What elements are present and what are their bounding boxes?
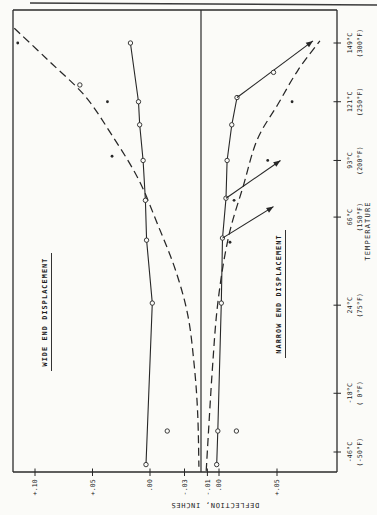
- wide-scatter-points-dot-marker: [111, 155, 114, 158]
- narrow-trend-line-to-71c-arrowhead: [266, 207, 273, 213]
- narrow-panel: -.01.00+.05: [204, 41, 320, 496]
- wide-measured-deflection-line-circle-marker: [150, 301, 154, 305]
- narrow-trend-line-to-93c-arrowhead: [273, 160, 280, 166]
- wide-scatter-points-circle-marker: [165, 429, 169, 433]
- scanned-figure-page: WIDE END DISPLACEMENT NARROW END DISPLAC…: [0, 0, 377, 515]
- wide-predicted-deflection-curve-circle-marker: [78, 83, 82, 87]
- narrow-scatter-points: [229, 100, 294, 433]
- narrow-trend-line-to-149c: [237, 41, 313, 98]
- narrow-predicted-deflection-curve: [206, 41, 320, 471]
- narrow-scatter-points-dot-marker: [233, 199, 236, 202]
- narrow-trend-line-to-93c-path: [226, 161, 281, 199]
- temperature-tick-label--46c: -46°C: [346, 442, 354, 463]
- temperature-tick-sublabel-121c: (250°F): [356, 87, 364, 116]
- wide-predicted-deflection-curve: [14, 28, 199, 466]
- figure-rotated-wrapper: WIDE END DISPLACEMENT NARROW END DISPLAC…: [0, 0, 377, 515]
- wide-measured-deflection-line: [128, 41, 154, 467]
- narrow-scatter-points-dot-marker: [229, 241, 232, 244]
- temperature-tick-sublabel-149c: (300°F): [356, 29, 364, 58]
- wide-measured-deflection-line-circle-marker: [137, 123, 141, 127]
- temperature-tick-label-93c: 93°C: [346, 152, 354, 168]
- wide-measured-deflection-line-circle-marker: [128, 41, 132, 45]
- temperature-tick-label-121c: 121°C: [346, 91, 354, 112]
- narrow-measured-deflection-line-circle-marker: [216, 429, 220, 433]
- narrow-measured-deflection-line-path: [217, 98, 237, 465]
- wide-deflection-tick-label: -.03: [181, 479, 189, 495]
- wide-measured-deflection-line-circle-marker: [144, 462, 148, 466]
- scan-edge-artifact-line: [30, 3, 377, 5]
- narrow-trend-line-to-71c: [223, 207, 274, 239]
- y-axis-label: DEFLECTION, INCHES: [171, 501, 259, 509]
- narrow-measured-deflection-line-circle-marker: [225, 158, 229, 162]
- narrow-measured-deflection-line: [214, 95, 239, 466]
- wide-measured-deflection-line-circle-marker: [136, 100, 140, 104]
- temperature-tick-sublabel-24c: (75°F): [356, 293, 364, 318]
- narrow-trend-line-to-93c: [226, 160, 281, 198]
- narrow-deflection-tick-label: -.01: [204, 479, 212, 495]
- wide-deflection-tick-label: +.10: [31, 479, 39, 495]
- temperature-tick-label--18c: -18°C: [346, 383, 354, 404]
- x-axis-label: TEMPERATURE: [364, 201, 372, 261]
- narrow-trend-line-to-149c-arrowhead: [306, 41, 313, 47]
- wide-measured-deflection-line-path: [130, 43, 152, 465]
- narrow-trend-line-to-149c-path: [237, 41, 313, 98]
- wide-panel-title: WIDE END DISPLACEMENT: [41, 257, 49, 366]
- wide-deflection-tick-label: .00: [146, 479, 154, 491]
- narrow-scatter-points-dot-marker: [266, 159, 269, 162]
- wide-deflection-tick-label: +.05: [89, 479, 97, 495]
- temperature-tick-sublabel--18c: ( 0°F): [356, 381, 364, 406]
- narrow-scatter-points-circle-marker: [234, 429, 238, 433]
- chart-series-root: -46°C(-50°F)-18°C( 0°F)24°C(75°F)66°C(15…: [14, 28, 363, 495]
- narrow-trend-line-to-71c-path: [223, 207, 274, 239]
- temperature-tick-label-149c: 149°C: [346, 33, 354, 54]
- wide-scatter-points-dot-marker: [106, 100, 109, 103]
- narrow-measured-deflection-line-circle-marker: [230, 123, 234, 127]
- narrow-measured-deflection-line-circle-marker: [219, 301, 223, 305]
- wide-scatter-points-dot-marker: [16, 42, 19, 45]
- temperature-tick-sublabel-66c: (150°F): [356, 203, 364, 232]
- chart-canvas: WIDE END DISPLACEMENT NARROW END DISPLAC…: [0, 0, 377, 515]
- temperature-tick-sublabel-93c: (200°F): [356, 146, 364, 175]
- narrow-predicted-deflection-curve-path: [206, 41, 320, 471]
- wide-measured-deflection-line-circle-marker: [143, 198, 147, 202]
- narrow-trend-line-to-149c-circle-marker: [271, 70, 275, 74]
- plot-frame: [13, 3, 377, 472]
- temperature-tick-group: -46°C(-50°F)-18°C( 0°F)24°C(75°F)66°C(15…: [334, 29, 364, 467]
- temperature-tick-label-24c: 24°C: [346, 297, 354, 313]
- wide-measured-deflection-line-circle-marker: [141, 158, 145, 162]
- narrow-deflection-tick-label: +.05: [273, 479, 281, 495]
- temperature-tick-sublabel--46c: (-50°F): [356, 438, 364, 467]
- narrow-scatter-points-dot-marker: [291, 100, 294, 103]
- wide-predicted-deflection-curve-path: [14, 28, 199, 466]
- temperature-tick-label-66c: 66°C: [346, 209, 354, 225]
- narrow-deflection-tick-label: .00: [215, 479, 223, 491]
- narrow-panel-title: NARROW END DISPLACEMENT: [275, 234, 283, 353]
- wide-measured-deflection-line-circle-marker: [144, 238, 148, 242]
- narrow-measured-deflection-line-circle-marker: [214, 462, 218, 466]
